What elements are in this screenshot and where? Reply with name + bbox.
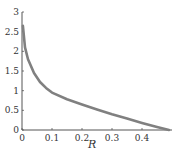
data-curve <box>23 26 169 130</box>
x-tick-label: 0.3 <box>105 133 120 143</box>
y-tick-label: 3 <box>13 7 19 17</box>
x-tick-label: 0 <box>19 133 25 143</box>
x-axis-label: R <box>88 138 96 151</box>
y-tick-label: 2 <box>13 46 19 56</box>
chart: 00.511.522.5300.10.20.30.4 R <box>0 0 183 161</box>
x-tick-label: 0.1 <box>45 133 59 143</box>
y-tick-label: 1.5 <box>5 66 20 76</box>
x-tick-label: 0.2 <box>75 133 89 143</box>
y-tick-label: 1 <box>13 86 19 96</box>
y-tick-label: 0.5 <box>5 105 20 115</box>
y-tick-label: 2.5 <box>5 27 20 37</box>
x-tick-label: 0.4 <box>135 133 150 143</box>
plot-area: 00.511.522.5300.10.20.30.4 <box>0 0 183 161</box>
